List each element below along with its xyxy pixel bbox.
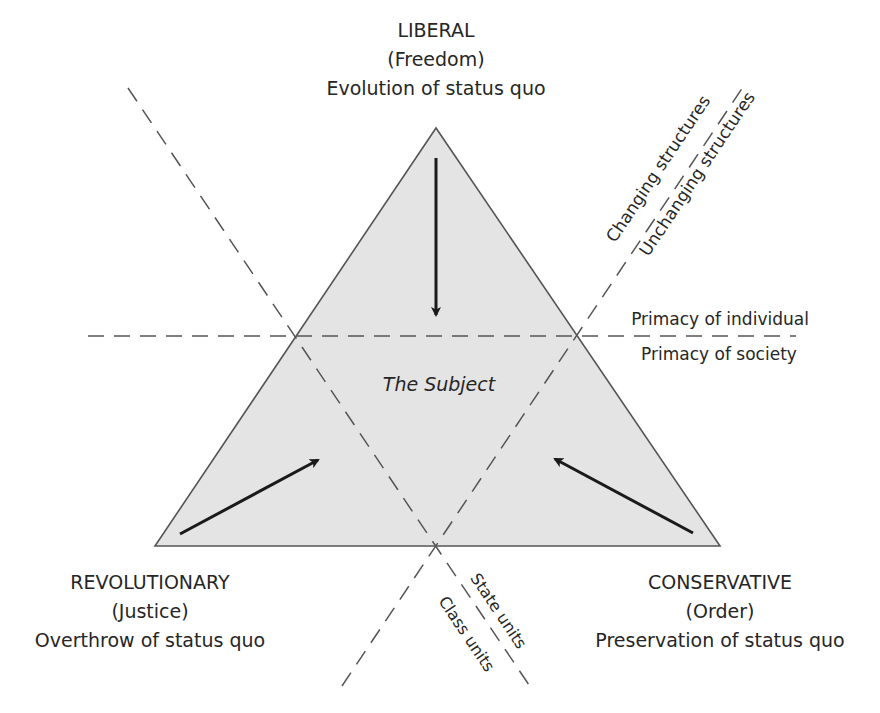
conservative-title: CONSERVATIVE: [570, 568, 870, 597]
liberal-value: (Freedom): [286, 45, 586, 74]
liberal-title: LIBERAL: [286, 16, 586, 45]
liberal-description: Evolution of status quo: [286, 74, 586, 103]
axis-label-primacy-individual: Primacy of individual: [631, 309, 809, 329]
vertex-label-liberal: LIBERAL (Freedom) Evolution of status qu…: [286, 16, 586, 103]
conservative-description: Preservation of status quo: [570, 626, 870, 655]
conservative-value: (Order): [570, 597, 870, 626]
revolutionary-value: (Justice): [0, 597, 300, 626]
center-label: The Subject: [383, 373, 497, 395]
vertex-label-revolutionary: REVOLUTIONARY (Justice) Overthrow of sta…: [0, 568, 300, 655]
axis-label-primacy-society: Primacy of society: [641, 344, 797, 364]
revolutionary-description: Overthrow of status quo: [0, 626, 300, 655]
vertex-label-conservative: CONSERVATIVE (Order) Preservation of sta…: [570, 568, 870, 655]
revolutionary-title: REVOLUTIONARY: [0, 568, 300, 597]
